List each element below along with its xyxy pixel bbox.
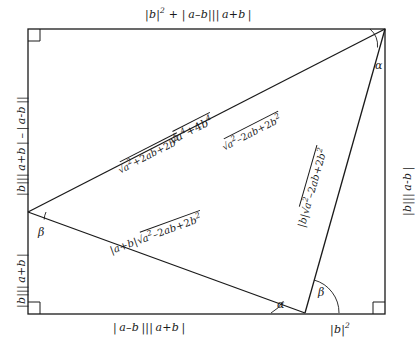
diagram-canvas: |b|2 + | a–b||| a+b | |b||| a+b | – | a-… [0,0,415,344]
right-angle-marker-top-left [28,29,40,41]
label-bottom-right-side: |b|2 [330,322,350,335]
label-left-lower-side: |b||| a+b | [16,253,27,308]
label-bottom-left-side: | a–b ||| a+b | [113,322,185,333]
right-angle-marker-bottom-left [28,302,40,314]
angle-label-alpha-bottom: α [277,298,284,311]
diagram-vector-layer [0,0,415,344]
outer-rectangle [28,29,385,314]
angle-label-beta-left: β [38,226,44,239]
label-right-side: |b||| a-b | [402,166,413,216]
angle-label-beta-bottom: β [318,286,324,299]
label-top-side: |b|2 + | a–b||| a+b | [145,7,252,20]
angle-label-alpha-top-right: α [375,59,382,72]
label-left-upper-side: |b||| a+b | – | a-b || [16,96,27,196]
angle-arc-alpha-top-right [370,29,378,48]
